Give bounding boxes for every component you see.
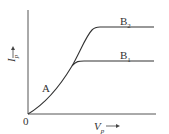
b1-sub: 1 <box>127 56 131 64</box>
curve-a <box>28 66 72 114</box>
curve-b2-label: B2 <box>120 16 131 30</box>
b2-sub: 2 <box>127 22 131 30</box>
x-axis-label-main: V <box>94 120 101 132</box>
origin-label: 0 <box>23 116 29 127</box>
x-axis-label-sub: p <box>101 127 105 134</box>
curve-b1 <box>72 61 154 66</box>
x-axis-label: Vp <box>94 121 104 134</box>
y-axis-label-sub: p <box>12 55 20 59</box>
y-axis-label-main: I <box>5 58 17 62</box>
y-axis-label: Ip <box>6 55 20 62</box>
y-arrow-head <box>11 46 15 50</box>
curve-b1-label: B1 <box>120 50 131 64</box>
x-arrow-head <box>116 124 120 128</box>
plot-area <box>0 0 169 134</box>
curve-a-label: A <box>42 83 50 94</box>
curve-b2 <box>72 27 154 66</box>
